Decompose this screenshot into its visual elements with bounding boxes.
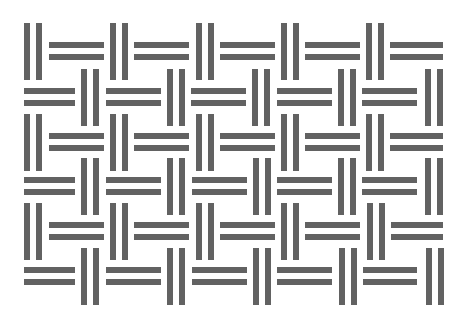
- horizontal-bar: [220, 145, 275, 151]
- horizontal-bar: [391, 234, 443, 240]
- horizontal-bar: [305, 133, 360, 139]
- horizontal-bar: [134, 133, 189, 139]
- vertical-bar-pair: [196, 23, 214, 80]
- horizontal-bar-pair: [134, 222, 189, 240]
- vertical-bar: [167, 158, 173, 215]
- horizontal-bar-pair: [305, 42, 360, 60]
- horizontal-bar: [24, 189, 75, 195]
- horizontal-bar: [220, 54, 275, 60]
- horizontal-bar: [305, 54, 360, 60]
- vertical-bar-pair: [167, 69, 185, 126]
- vertical-bar: [36, 203, 42, 260]
- vertical-bar: [93, 69, 99, 126]
- vertical-bar: [437, 158, 443, 215]
- vertical-bar: [425, 69, 431, 126]
- horizontal-bar: [106, 100, 161, 106]
- horizontal-bar-pair: [49, 42, 104, 60]
- vertical-bar: [179, 69, 185, 126]
- vertical-bar: [366, 23, 372, 80]
- horizontal-bar: [277, 189, 332, 195]
- horizontal-bar-pair: [220, 42, 275, 60]
- vertical-bar: [253, 248, 259, 305]
- vertical-bar: [425, 158, 431, 215]
- horizontal-bar: [277, 267, 332, 273]
- horizontal-bar-pair: [363, 267, 417, 285]
- horizontal-bar: [24, 267, 75, 273]
- vertical-bar: [338, 158, 344, 215]
- vertical-bar: [208, 23, 214, 80]
- vertical-bar: [122, 203, 128, 260]
- horizontal-bar: [192, 189, 247, 195]
- vertical-bar: [167, 69, 173, 126]
- vertical-bar: [179, 248, 185, 305]
- horizontal-bar: [191, 88, 246, 94]
- horizontal-bar-pair: [24, 267, 75, 285]
- horizontal-bar: [106, 189, 161, 195]
- horizontal-bar-pair: [106, 88, 161, 106]
- vertical-bar-pair: [81, 69, 99, 126]
- vertical-bar: [378, 114, 384, 171]
- vertical-bar: [81, 248, 87, 305]
- vertical-bar: [93, 158, 99, 215]
- horizontal-bar: [220, 222, 275, 228]
- horizontal-bar: [363, 267, 417, 273]
- horizontal-bar-pair: [134, 133, 189, 151]
- vertical-bar: [179, 158, 185, 215]
- vertical-bar: [366, 114, 372, 171]
- horizontal-bar: [49, 145, 104, 151]
- vertical-bar-pair: [425, 69, 443, 126]
- vertical-bar-pair: [110, 203, 128, 260]
- vertical-bar: [81, 69, 87, 126]
- horizontal-bar: [106, 267, 161, 273]
- vertical-bar: [351, 248, 357, 305]
- horizontal-bar: [390, 133, 443, 139]
- horizontal-bar: [191, 100, 246, 106]
- vertical-bar: [110, 23, 116, 80]
- vertical-bar: [122, 23, 128, 80]
- horizontal-bar-pair: [106, 177, 161, 195]
- vertical-bar: [24, 23, 30, 80]
- vertical-bar: [265, 248, 271, 305]
- horizontal-bar: [49, 222, 104, 228]
- vertical-bar-pair: [81, 248, 99, 305]
- horizontal-bar: [24, 88, 75, 94]
- vertical-bar: [293, 114, 299, 171]
- vertical-bar: [367, 203, 373, 260]
- vertical-bar-pair: [253, 158, 271, 215]
- vertical-bar: [293, 203, 299, 260]
- horizontal-bar: [220, 133, 275, 139]
- vertical-bar-pair: [81, 158, 99, 215]
- horizontal-bar: [305, 222, 360, 228]
- horizontal-bar: [24, 279, 75, 285]
- horizontal-bar: [362, 100, 417, 106]
- basket-weave-pattern: [0, 0, 468, 323]
- vertical-bar-pair: [167, 158, 185, 215]
- vertical-bar: [438, 248, 444, 305]
- vertical-bar-pair: [338, 158, 356, 215]
- vertical-bar-pair: [196, 203, 214, 260]
- vertical-bar: [110, 203, 116, 260]
- horizontal-bar: [49, 133, 104, 139]
- vertical-bar-pair: [426, 248, 444, 305]
- horizontal-bar: [277, 88, 332, 94]
- vertical-bar: [252, 69, 258, 126]
- horizontal-bar: [363, 279, 417, 285]
- horizontal-bar-pair: [191, 88, 246, 106]
- horizontal-bar: [192, 279, 247, 285]
- horizontal-bar: [362, 88, 417, 94]
- horizontal-bar: [390, 54, 443, 60]
- horizontal-bar-pair: [24, 88, 75, 106]
- vertical-bar-pair: [339, 248, 357, 305]
- vertical-bar: [379, 203, 385, 260]
- horizontal-bar: [106, 88, 161, 94]
- horizontal-bar-pair: [362, 88, 417, 106]
- horizontal-bar: [390, 42, 443, 48]
- vertical-bar-pair: [253, 248, 271, 305]
- horizontal-bar-pair: [192, 177, 247, 195]
- horizontal-bar-pair: [106, 267, 161, 285]
- horizontal-bar-pair: [220, 133, 275, 151]
- horizontal-bar: [134, 222, 189, 228]
- horizontal-bar-pair: [220, 222, 275, 240]
- vertical-bar-pair: [196, 114, 214, 171]
- vertical-bar-pair: [366, 23, 384, 80]
